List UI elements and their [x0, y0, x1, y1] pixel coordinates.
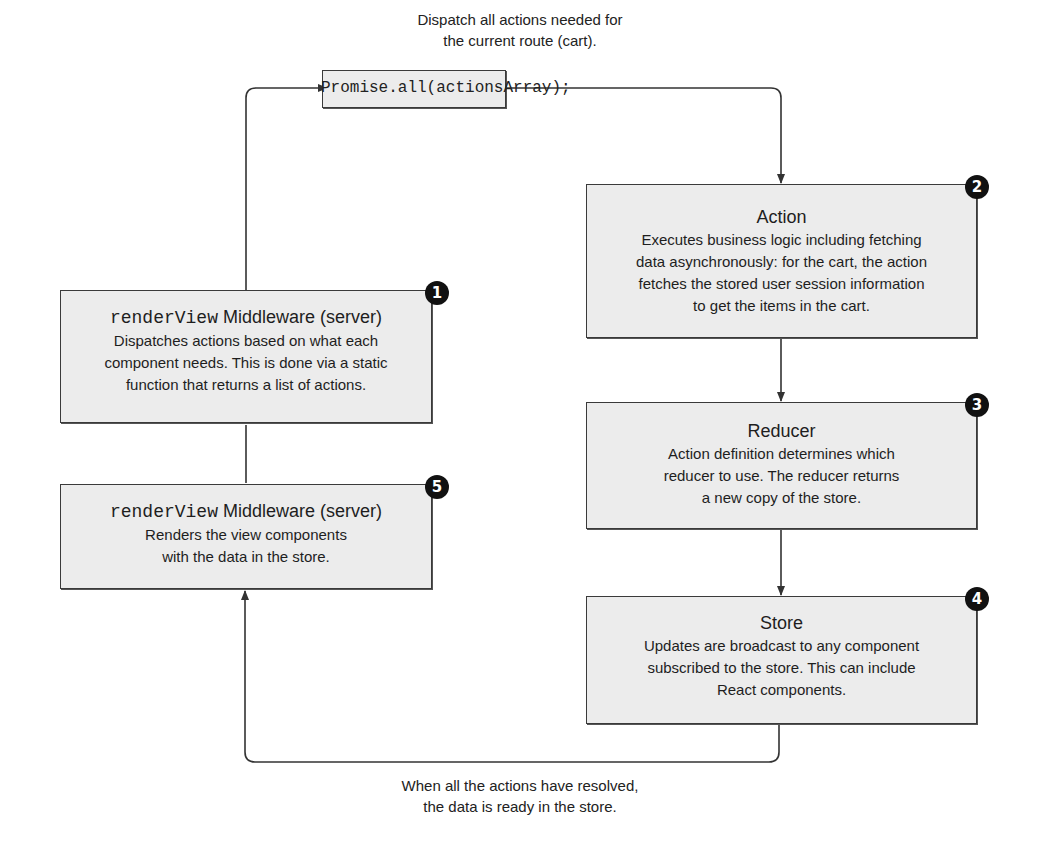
step-reducer-box: Reducer Action definition determines whi… [586, 402, 977, 529]
step-renderview-dispatch-box: renderView Middleware (server) Dispatche… [60, 290, 432, 423]
bottom-caption-line: the data is ready in the store. [330, 796, 710, 817]
body-line: a new copy of the store. [587, 487, 976, 509]
arrow-step1-to-promise [246, 88, 327, 290]
step-renderview-render-title: renderView Middleware (server) [61, 499, 431, 524]
title-code: renderView [110, 308, 218, 328]
step-renderview-dispatch-body: Dispatches actions based on what each co… [61, 330, 431, 396]
step-action-title: Action [587, 205, 976, 229]
body-line: Dispatches actions based on what each [61, 330, 431, 352]
arrow-promise-to-action [505, 88, 781, 183]
title-code: renderView [110, 502, 218, 522]
step-number-badge-1: 1 [425, 281, 449, 305]
body-line: to get the items in the cart. [587, 295, 976, 317]
step-store-title: Store [587, 611, 976, 635]
step-number-badge-2: 2 [965, 175, 989, 199]
step-store-body: Updates are broadcast to any component s… [587, 635, 976, 701]
step-reducer-title: Reducer [587, 419, 976, 443]
step-action-box: Action Executes business logic including… [586, 184, 977, 338]
title-text: Middleware (server) [223, 501, 382, 521]
step-number-badge-5: 5 [425, 475, 449, 499]
body-line: reducer to use. The reducer returns [587, 465, 976, 487]
title-text: Middleware (server) [223, 307, 382, 327]
body-line: Updates are broadcast to any component [587, 635, 976, 657]
step-renderview-render-box: renderView Middleware (server) Renders t… [60, 484, 432, 589]
step-renderview-dispatch-title: renderView Middleware (server) [61, 305, 431, 330]
body-line: React components. [587, 679, 976, 701]
body-line: Executes business logic including fetchi… [587, 229, 976, 251]
top-caption-line: the current route (cart). [330, 30, 710, 51]
step-number-badge-3: 3 [965, 393, 989, 417]
body-line: fetches the stored user session informat… [587, 273, 976, 295]
body-line: subscribed to the store. This can includ… [587, 657, 976, 679]
body-line: Renders the view components [61, 524, 431, 546]
body-line: with the data in the store. [61, 546, 431, 568]
step-reducer-body: Action definition determines which reduc… [587, 443, 976, 509]
body-line: component needs. This is done via a stat… [61, 352, 431, 374]
body-line: function that returns a list of actions. [61, 374, 431, 396]
top-caption-line: Dispatch all actions needed for [330, 9, 710, 30]
step-store-box: Store Updates are broadcast to any compo… [586, 596, 977, 724]
body-line: Action definition determines which [587, 443, 976, 465]
step-number-badge-4: 4 [965, 587, 989, 611]
bottom-caption: When all the actions have resolved, the … [330, 775, 710, 817]
body-line: data asynchronously: for the cart, the a… [587, 251, 976, 273]
top-caption: Dispatch all actions needed for the curr… [330, 9, 710, 51]
step-action-body: Executes business logic including fetchi… [587, 229, 976, 317]
bottom-caption-line: When all the actions have resolved, [330, 775, 710, 796]
promise-all-code: Promise.all(actionsArray); [321, 69, 506, 107]
step-renderview-render-body: Renders the view components with the dat… [61, 524, 431, 568]
